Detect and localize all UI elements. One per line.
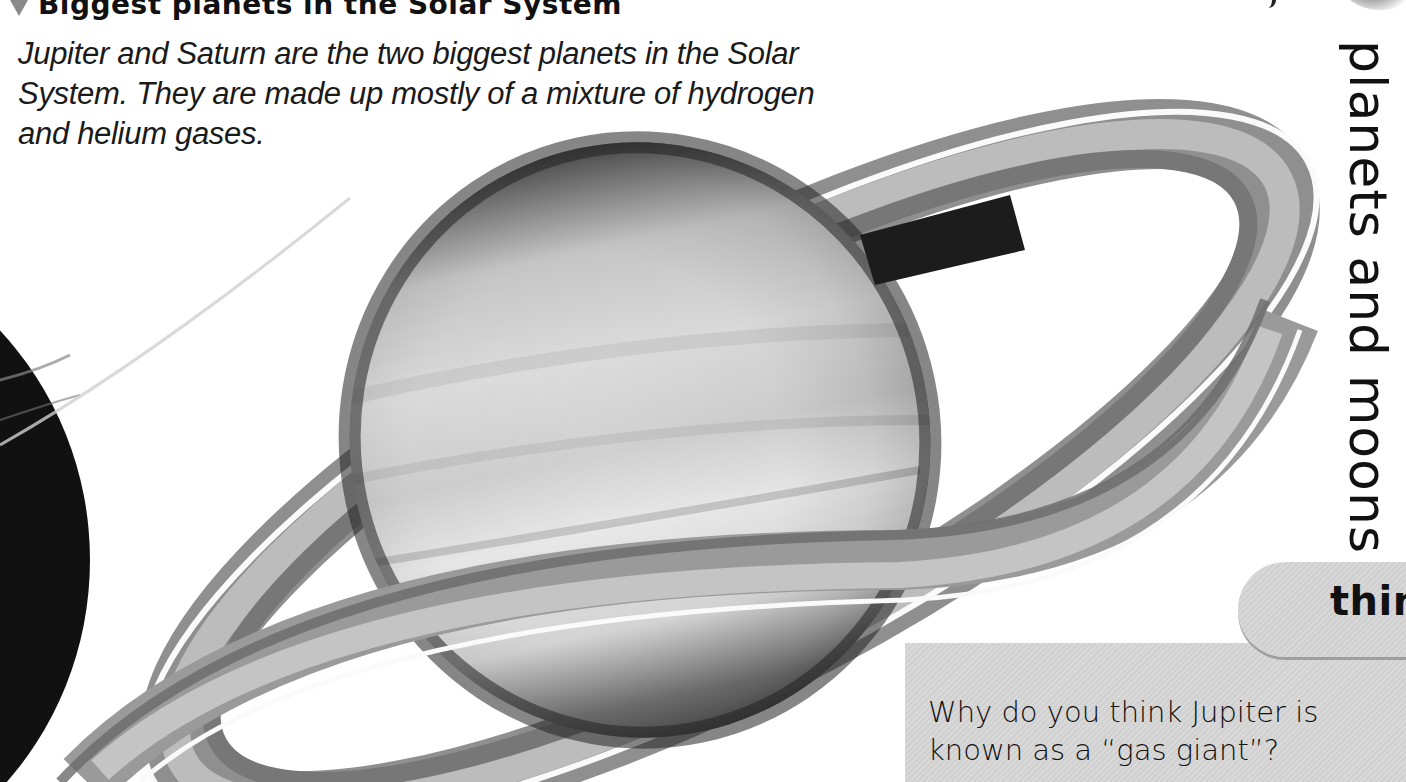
think-question: Why do you think Jupiter is known as a “… [928,693,1398,769]
section-title-text: planets and moons [1338,40,1398,554]
think-label: think [1330,578,1406,624]
caption-heading: Biggest planets in the Solar System [38,0,622,21]
jupiter-planet [0,230,90,782]
caption-body: Jupiter and Saturn are the two biggest p… [18,34,838,154]
triangle-down-icon [10,0,28,16]
section-title-vertical: planets and moons [1330,40,1406,510]
